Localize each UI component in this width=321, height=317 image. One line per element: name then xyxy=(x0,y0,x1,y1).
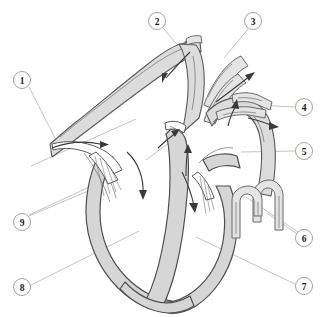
left-atrium-wall xyxy=(203,154,240,171)
callout-marker-9[interactable]: 9 xyxy=(14,214,31,231)
heart-diagram-svg: 1 2 3 4 5 6 xyxy=(0,0,321,317)
callout-marker-5[interactable]: 5 xyxy=(296,143,313,160)
pulmonary-vein-inner xyxy=(232,186,262,238)
callout-label-3: 3 xyxy=(251,17,256,27)
callout-label-9: 9 xyxy=(20,218,25,228)
callout-marker-1[interactable]: 1 xyxy=(14,72,31,89)
callout-marker-3[interactable]: 3 xyxy=(245,13,262,30)
callout-marker-7[interactable]: 7 xyxy=(296,278,313,295)
callout-marker-8[interactable]: 8 xyxy=(14,279,31,296)
left-atrium-connection xyxy=(203,154,240,171)
callout-label-5: 5 xyxy=(302,147,307,157)
callout-label-4: 4 xyxy=(302,103,307,113)
callout-label-2: 2 xyxy=(155,17,160,27)
callout-marker-4[interactable]: 4 xyxy=(296,99,313,116)
callout-marker-6[interactable]: 6 xyxy=(296,230,313,247)
callout-label-1: 1 xyxy=(20,76,25,86)
leader-line-1 xyxy=(29,87,56,140)
heart-diagram-figure: 1 2 3 4 5 6 xyxy=(0,0,321,317)
flow-arrow-rv xyxy=(127,152,147,200)
interventricular-septum xyxy=(146,129,188,308)
callout-label-8: 8 xyxy=(20,283,25,293)
callout-label-7: 7 xyxy=(302,282,307,292)
callout-marker-2[interactable]: 2 xyxy=(149,13,166,30)
pulmonary-veins xyxy=(232,180,283,238)
leader-line-3 xyxy=(224,29,248,58)
callout-label-6: 6 xyxy=(302,234,307,244)
